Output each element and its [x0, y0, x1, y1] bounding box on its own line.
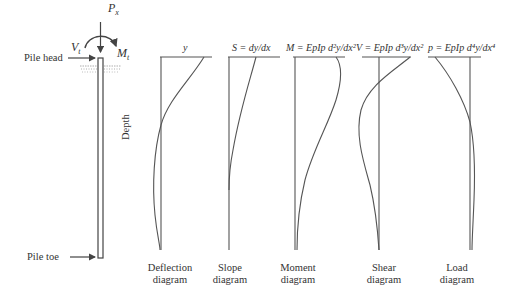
deflection-diagram [154, 57, 212, 250]
load-caption-line2: diagram [422, 274, 492, 286]
axial-load-label: Px [108, 2, 119, 19]
load-caption-line1: Load [422, 262, 492, 274]
pile-head-label: Pile head [24, 52, 63, 64]
moment-caption-line2: diagram [263, 274, 333, 286]
shear-diagram [359, 57, 411, 250]
load-caption: Load diagram [422, 262, 492, 286]
depth-axis-label: Depth [120, 114, 131, 140]
shear-caption: Shear diagram [349, 262, 419, 286]
slope-caption-line2: diagram [195, 274, 265, 286]
shear-load-label: Vt [71, 41, 81, 58]
soil-hatch [80, 66, 121, 72]
moment-caption-line1: Moment [263, 262, 333, 274]
moment-equation: M = EpIp d²y/dx² [286, 42, 356, 54]
deflection-equation: y [183, 42, 187, 54]
load-equation: p = EpIp d⁴y/dx⁴ [428, 42, 495, 54]
moment-diagram [293, 57, 345, 250]
slope-caption: Slope diagram [195, 262, 265, 286]
load-diagram [428, 57, 481, 250]
pile-toe-label: Pile toe [27, 251, 59, 263]
shear-caption-line1: Shear [349, 262, 419, 274]
moment-caption: Moment diagram [263, 262, 333, 286]
slope-equation: S = dy/dx [232, 42, 270, 54]
slope-diagram [228, 57, 280, 250]
moment-label: Mt [117, 47, 129, 64]
shear-caption-line2: diagram [349, 274, 419, 286]
shear-equation: V = EpIp d³y/dx² [356, 42, 423, 54]
slope-caption-line1: Slope [195, 262, 265, 274]
